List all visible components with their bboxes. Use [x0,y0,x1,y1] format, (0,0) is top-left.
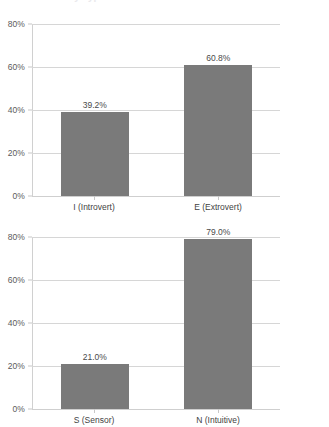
chart-ie-plot-area: 0%20%40%60%80% 39.2%60.8% I (Introvert)E… [32,24,280,196]
chart-ie-x-tick-mark [218,196,219,200]
chart-ie-bar-group[interactable]: 60.8% [184,24,252,196]
chart-sn-category-label: N (Intuitive) [156,415,280,425]
chart-sn-bar[interactable] [184,239,252,409]
chart-sn-y-tick-mark [28,323,32,324]
chart-ie-y-tick-mark [28,110,32,111]
chart-sn-y-tick-mark [28,409,32,410]
chart-ie-bar[interactable] [61,112,129,196]
chart-ie-x-tick-mark [94,196,95,200]
chart-ie-gridline [32,196,280,197]
chart-ie-bar-value-label: 60.8% [168,53,268,63]
chart-ie-bars: 39.2%60.8% [33,24,280,196]
chart-page: Personality Type Distribution 0%20%40%60… [0,0,329,427]
chart-sn-bars: 21.0%79.0% [33,237,280,409]
chart-ie-y-tick-mark [28,196,32,197]
chart-ie-bar[interactable] [184,65,252,196]
chart-sn-plot-area: 0%20%40%60%80% 21.0%79.0% S (Sensor)N (I… [32,237,280,409]
chart-sn-bar-group[interactable]: 79.0% [184,237,252,409]
chart-sn-y-tick-mark [28,366,32,367]
chart-sn-x-tick-mark [94,409,95,413]
chart-ie-category-label: I (Introvert) [32,202,156,212]
chart-ie-y-tick-mark [28,153,32,154]
chart-ie: 0%20%40%60%80% 39.2%60.8% I (Introvert)E… [0,6,329,214]
chart-sn-gridline [32,409,280,410]
chart-sn-y-tick-mark [28,237,32,238]
chart-ie-bar-value-label: 39.2% [45,100,145,110]
chart-sn-bar-value-label: 21.0% [45,352,145,362]
clipped-title-text: Personality Type Distribution [26,0,164,2]
chart-ie-bar-group[interactable]: 39.2% [61,24,129,196]
chart-sn-y-tick-mark [28,280,32,281]
chart-sn: 0%20%40%60%80% 21.0%79.0% S (Sensor)N (I… [0,221,329,427]
chart-sn-bar[interactable] [61,364,129,409]
chart-ie-category-label: E (Extrovert) [156,202,280,212]
chart-ie-y-tick-mark [28,67,32,68]
chart-sn-category-label: S (Sensor) [32,415,156,425]
chart-sn-bar-group[interactable]: 21.0% [61,237,129,409]
chart-ie-y-tick-mark [28,24,32,25]
chart-sn-x-tick-mark [218,409,219,413]
chart-sn-bar-value-label: 79.0% [168,227,268,237]
